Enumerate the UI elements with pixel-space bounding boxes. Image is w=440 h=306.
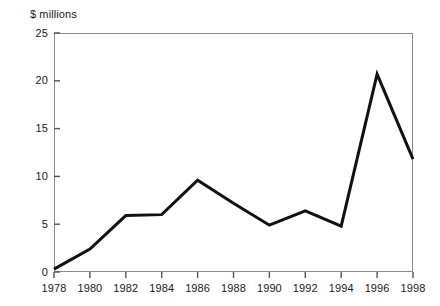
chart-canvas xyxy=(0,0,440,306)
y-tick-label: 15 xyxy=(22,123,48,134)
y-tick-label: 20 xyxy=(22,75,48,86)
x-tick-label: 1996 xyxy=(357,283,397,294)
y-tick-label: 10 xyxy=(22,171,48,182)
y-axis-ticks xyxy=(54,33,60,272)
x-tick-label: 1998 xyxy=(393,283,433,294)
line-chart: $ millions 0510152025 197819801982198419… xyxy=(0,0,440,306)
y-tick-label: 25 xyxy=(22,28,48,39)
x-tick-label: 1986 xyxy=(178,283,218,294)
y-tick-label: 5 xyxy=(22,219,48,230)
x-tick-label: 1992 xyxy=(285,283,325,294)
x-tick-label: 1984 xyxy=(142,283,182,294)
x-tick-label: 1978 xyxy=(34,283,74,294)
y-tick-label: 0 xyxy=(22,267,48,278)
x-axis-ticks xyxy=(54,272,413,278)
x-tick-label: 1982 xyxy=(106,283,146,294)
data-series-line xyxy=(54,74,413,269)
x-tick-label: 1988 xyxy=(214,283,254,294)
x-tick-label: 1990 xyxy=(249,283,289,294)
x-tick-label: 1980 xyxy=(70,283,110,294)
x-tick-label: 1994 xyxy=(321,283,361,294)
